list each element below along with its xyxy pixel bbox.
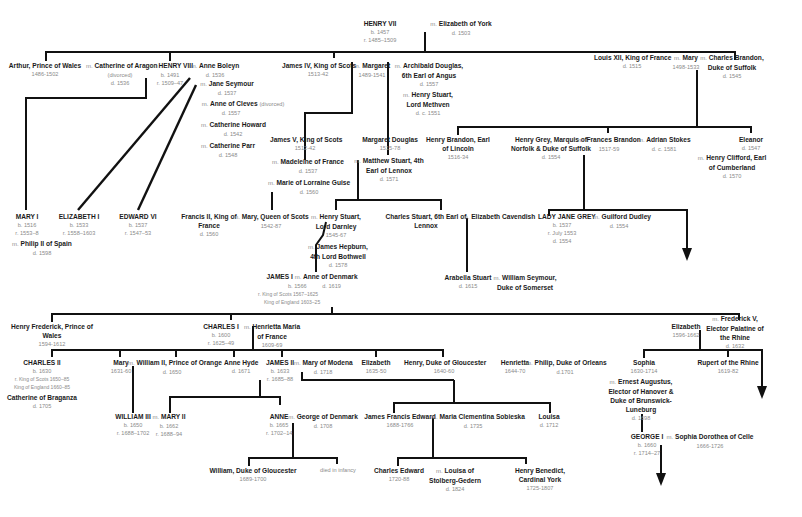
person-elizabeth-of-york: m. Elizabeth of York d. 1503 — [406, 19, 516, 37]
person-james-iv: James IV, King of Scots 1513-42 — [282, 61, 354, 78]
person-madeleine-of-france: m. Madeleine of France d. 1537 — [270, 157, 346, 175]
person-william-seymour: m. William Seymour, Duke of Somerset — [488, 273, 562, 292]
person-henry-benedict: Henry Benedict, Cardinal York 1725-1807 — [506, 466, 574, 492]
person-lord-darnley: m. Henry Stuart, Lord Darnley 1545-67 — [304, 212, 368, 239]
person-archibald-douglas: m. Archibald Douglas, 6th Earl of Angus … — [393, 61, 465, 88]
person-mary-of-modena: m. Mary of Modena d. 1718 — [294, 358, 352, 376]
person-ernest-augustus: m. Ernest Augustus, Elector of Hanover &… — [600, 377, 682, 422]
note-died-in-infancy: died in infancy — [316, 466, 360, 474]
person-william-iii: WILLIAM III b. 1650 r. 1688–1702 — [114, 412, 152, 437]
person-mary-i: MARY I b. 1516 r. 1553–8 — [8, 212, 46, 237]
person-rupert-of-the-rhine: Rupert of the Rhine 1619-82 — [696, 358, 760, 375]
person-henry-brandon: Henry Brandon, Earl of Lincoln 1516-34 — [424, 135, 492, 161]
person-matthew-stuart: m. Matthew Stuart, 4th Earl of Lennox d.… — [354, 156, 424, 183]
person-anne-of-cleves: m. Anne of Cleves (divorced) d. 1557 — [198, 99, 288, 117]
person-james-i: JAMES I m. Anne of Denmark b. 1566 d. 16… — [258, 272, 366, 306]
person-james-v: James V, King of Scots 1512-42 — [270, 135, 340, 152]
person-william-duke-of-gloucester: William, Duke of Gloucester 1689-1700 — [208, 466, 298, 483]
person-elizabeth-i: ELIZABETH I b. 1533 r. 1558–1603 — [52, 212, 106, 237]
person-anne-boleyn: m. Anne Boleyn d. 1536 — [188, 61, 242, 79]
person-george-of-denmark: m. George of Denmark d. 1708 — [288, 412, 358, 430]
person-william-ii-orange: m. William II, Prince of Orange d. 1650 — [128, 358, 216, 376]
person-marie-of-guise: m. Marie of Lorraine Guise d. 1560 — [266, 178, 352, 196]
person-henry-frederick: Henry Frederick, Prince of Wales 1594-16… — [10, 322, 94, 348]
person-philip-duke-of-orleans: m. Philip, Duke of Orleans d.1701 — [526, 358, 604, 376]
person-henry-stuart-methven: m. Henry Stuart, Lord Methven d. c. 1551 — [396, 90, 460, 117]
person-margaret-tudor: m. Margaret 1489-1541 — [351, 61, 393, 79]
person-francis-ii: Francis II, King of France d. 1560 — [180, 212, 238, 238]
person-george-i: GEORGE I b. 1660 r. 1714–27 — [630, 432, 664, 457]
person-charles-brandon: m. Charles Brandon, Duke of Suffolk d. 1… — [700, 53, 764, 80]
person-frances-brandon: m. Frances Brandon 1517-59 — [578, 135, 640, 153]
person-mary-queen-of-scots: m. Mary, Queen of Scots 1542-87 — [233, 212, 309, 230]
person-elizabeth-of-bohemia: Elizabeth 1596-1662 — [668, 322, 704, 339]
person-maria-clementina-sobieska: m. Maria Clementina Sobieska d. 1735 — [431, 412, 515, 430]
person-elizabeth-cavendish: m. Elizabeth Cavendish — [460, 212, 538, 222]
person-frederick-v: m. Frederick V, Elector Palatine of the … — [702, 314, 768, 350]
person-henrietta-maria: m. Henrietta Maria of France 1609-69 — [240, 322, 304, 349]
person-catherine-parr: m. Catherine Parr d. 1548 — [199, 141, 257, 159]
person-henry-viii: m. HENRY VIII b. 1491 r. 1509–47 — [150, 61, 190, 87]
person-charles-stuart-lennox: Charles Stuart, 6th Earl of Lennox — [385, 212, 467, 230]
person-mary-tudor: m. Mary 1498-1533 — [668, 53, 704, 71]
person-louisa-of-stolberg: m. Louisa of Stolberg-Gedern d. 1824 — [422, 466, 488, 493]
person-anne-hyde: Anne Hyde d. 1671 — [224, 358, 258, 375]
person-eleanor: Eleanor d. 1547 — [731, 135, 771, 152]
family-tree-diagram: HENRY VII b. 1457 r. 1485–1509 m. Elizab… — [0, 0, 802, 517]
person-charles-ii: CHARLES II b. 1630 r. King of Scots 1650… — [4, 358, 80, 391]
person-sophia: Sophia 1630-1714 — [624, 358, 664, 375]
person-catherine-of-aragon: m. Catherine of Aragon (divorced) d. 153… — [86, 61, 154, 87]
person-henry-duke-of-gloucester: Henry, Duke of Gloucester 1640-60 — [404, 358, 484, 375]
anne-of-denmark-dates: d. 1619 — [322, 283, 341, 289]
person-james-ii: JAMES II b. 1633 r. 1685–88 — [262, 358, 298, 383]
person-guilford-dudley: m. Guilford Dudley d. 1554 — [593, 212, 645, 230]
person-charles-edward: Charles Edward 1720-88 — [370, 466, 428, 483]
marriage-symbol: m. — [430, 21, 437, 27]
person-adrian-stokes: m. Adrian Stokes d. c. 1581 — [638, 135, 690, 153]
person-elizabeth-stuart: Elizabeth 1635-50 — [358, 358, 394, 375]
person-catherine-of-braganza: Catherine of Braganza d. 1705 — [4, 393, 80, 410]
person-james-francis-edward: James Francis Edward 1688-1766 — [364, 412, 436, 429]
person-henry-clifford: m. Henry Clifford, Earl of Cumberland d.… — [696, 153, 768, 180]
person-james-hepburn: m. James Hepburn, 4th Lord Bothwell d. 1… — [304, 242, 372, 269]
person-arthur: Arthur, Prince of Wales 1486-1502 — [4, 61, 86, 78]
person-margaret-douglas: Margaret Douglas 1515-78 — [360, 135, 420, 152]
person-jane-seymour: m. Jane Seymour d. 1537 — [200, 79, 254, 97]
person-louis-xii: Louis XII, King of France d. 1515 — [594, 53, 670, 70]
person-philip-ii: m. Philip II of Spain d. 1598 — [10, 239, 74, 257]
person-catherine-howard: m. Catherine Howard d. 1542 — [201, 120, 265, 138]
person-mary-ii: m. MARY II b. 1662 r. 1688–94 — [150, 412, 188, 438]
person-lady-jane-grey: LADY JANE GREY b. 1537 r. July 1553 d. 1… — [538, 212, 586, 245]
person-charles-i: CHARLES I b. 1600 r. 1625–49 — [200, 322, 242, 347]
person-sophia-dorothea: m. Sophia Dorothea of Celle 1666-1726 — [662, 432, 758, 450]
person-louisa: Louisa d. 1712 — [532, 412, 566, 429]
person-edward-vi: EDWARD VI b. 1537 r. 1547–53 — [118, 212, 158, 237]
